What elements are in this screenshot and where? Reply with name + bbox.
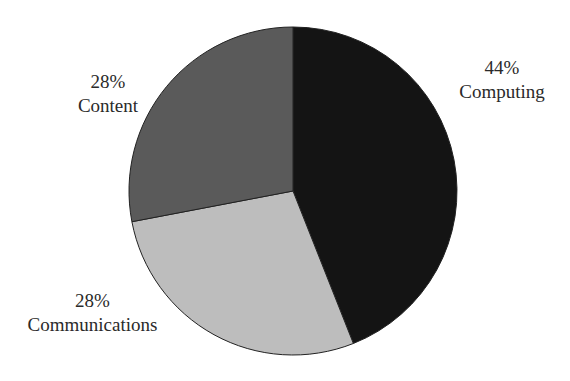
label-communications: 28% Communications <box>10 289 175 337</box>
label-content-name: Content <box>48 94 168 118</box>
label-computing-name: Computing <box>442 80 562 104</box>
label-computing: 44% Computing <box>442 56 562 104</box>
pie-slices <box>129 27 457 355</box>
label-computing-pct: 44% <box>442 56 562 80</box>
label-communications-pct: 28% <box>10 289 175 313</box>
label-content: 28% Content <box>48 70 168 118</box>
label-communications-name: Communications <box>10 313 175 337</box>
label-content-pct: 28% <box>48 70 168 94</box>
pie-slice-content <box>129 27 293 222</box>
